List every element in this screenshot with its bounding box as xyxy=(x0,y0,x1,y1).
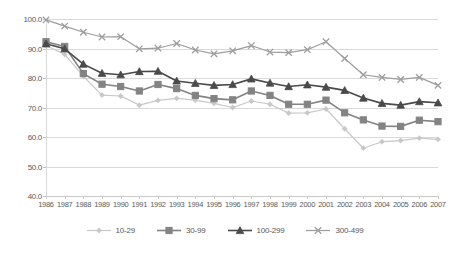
legend-item-10-29[interactable]: 10-29 xyxy=(86,225,135,236)
data-point-square xyxy=(323,97,329,103)
data-point-square xyxy=(416,117,422,123)
data-point-square xyxy=(304,101,310,107)
y-tick-label: 70.0 xyxy=(0,103,42,112)
x-tick-mark xyxy=(139,196,140,199)
data-point-diamond xyxy=(416,135,422,141)
data-point-square xyxy=(211,96,217,102)
data-point-square xyxy=(435,119,441,125)
data-point-square xyxy=(136,88,142,94)
x-tick-label: 1995 xyxy=(206,200,222,209)
legend-label: 10-29 xyxy=(116,226,135,235)
data-point-square xyxy=(379,123,385,129)
series-10-29 xyxy=(43,43,441,151)
legend-marker-diamond xyxy=(86,225,112,236)
x-tick-label: 2001 xyxy=(318,200,334,209)
data-point-square xyxy=(118,83,124,89)
data-point-diamond xyxy=(96,227,102,233)
x-tick-labels: 1986198719881989199019911992199319941995… xyxy=(0,200,449,214)
x-tick-label: 1986 xyxy=(38,200,54,209)
y-tick-label: 80.0 xyxy=(0,74,42,83)
x-tick-label: 1996 xyxy=(225,200,241,209)
data-point-cross xyxy=(435,82,441,88)
data-point-diamond xyxy=(136,102,142,108)
x-tick-mark xyxy=(65,196,66,199)
x-tick-label: 1987 xyxy=(57,200,73,209)
data-point-square xyxy=(267,92,273,98)
data-point-cross xyxy=(341,55,347,61)
data-point-square xyxy=(360,117,366,123)
x-tick-label: 1991 xyxy=(132,200,148,209)
x-tick-mark xyxy=(46,196,47,199)
data-point-square xyxy=(230,97,236,103)
y-tick-label: 90.0 xyxy=(0,44,42,53)
x-tick-label: 2006 xyxy=(412,200,428,209)
x-tick-label: 1999 xyxy=(281,200,297,209)
x-tick-mark xyxy=(401,196,402,199)
data-point-cross xyxy=(248,42,254,48)
data-point-diamond xyxy=(304,110,310,116)
legend-label: 30-99 xyxy=(186,226,205,235)
data-point-diamond xyxy=(174,95,180,101)
x-tick-mark xyxy=(251,196,252,199)
legend-item-30-99[interactable]: 30-99 xyxy=(156,225,205,236)
series-30-99 xyxy=(43,39,441,130)
x-tick-label: 1994 xyxy=(188,200,204,209)
series-layer xyxy=(46,19,438,196)
data-point-diamond xyxy=(379,139,385,145)
x-tick-label: 1992 xyxy=(150,200,166,209)
x-tick-mark xyxy=(121,196,122,199)
legend-item-300-499[interactable]: 300-499 xyxy=(305,225,363,236)
data-point-diamond xyxy=(286,110,292,116)
x-tick-mark xyxy=(382,196,383,199)
data-point-square xyxy=(342,110,348,116)
x-tick-mark xyxy=(289,196,290,199)
x-tick-label: 1993 xyxy=(169,200,185,209)
x-tick-mark xyxy=(214,196,215,199)
x-tick-mark xyxy=(102,196,103,199)
x-tick-label: 1997 xyxy=(244,200,260,209)
x-tick-label: 2007 xyxy=(430,200,446,209)
x-tick-label: 2004 xyxy=(374,200,390,209)
data-point-square xyxy=(286,101,292,107)
line-chart: 100.090.080.070.060.050.040.0 1986198719… xyxy=(0,0,449,253)
x-tick-mark xyxy=(158,196,159,199)
data-point-square xyxy=(99,81,105,87)
series-100-299 xyxy=(42,40,442,108)
data-point-square xyxy=(398,123,404,129)
data-point-diamond xyxy=(230,105,236,111)
legend-marker-triangle xyxy=(227,225,253,236)
x-tick-label: 1988 xyxy=(76,200,92,209)
data-point-square xyxy=(174,86,180,92)
legend-label: 300-499 xyxy=(335,226,363,235)
x-tick-mark xyxy=(233,196,234,199)
x-tick-mark xyxy=(177,196,178,199)
data-point-diamond xyxy=(118,93,124,99)
x-tick-mark xyxy=(307,196,308,199)
plot-area xyxy=(46,19,438,196)
x-tick-mark xyxy=(270,196,271,199)
data-point-diamond xyxy=(248,98,254,104)
data-point-cross xyxy=(323,39,329,45)
data-point-square xyxy=(166,227,172,233)
data-point-square xyxy=(248,88,254,94)
data-point-square xyxy=(155,81,161,87)
legend-marker-cross xyxy=(305,225,331,236)
data-point-diamond xyxy=(398,138,404,144)
x-tick-mark xyxy=(345,196,346,199)
legend-item-100-299[interactable]: 100-299 xyxy=(227,225,285,236)
x-tick-label: 1989 xyxy=(94,200,110,209)
chart-legend: 10-2930-99100-299300-499 xyxy=(0,221,449,239)
x-tick-label: 2000 xyxy=(300,200,316,209)
legend-marker-square xyxy=(156,225,182,236)
data-point-square xyxy=(80,70,86,76)
x-tick-mark xyxy=(195,196,196,199)
x-tick-label: 2003 xyxy=(356,200,372,209)
x-tick-label: 1990 xyxy=(113,200,129,209)
data-point-cross xyxy=(61,23,67,29)
data-point-square xyxy=(192,92,198,98)
x-tick-mark xyxy=(326,196,327,199)
x-tick-mark xyxy=(83,196,84,199)
x-tick-label: 2005 xyxy=(393,200,409,209)
data-point-triangle xyxy=(248,75,256,82)
x-tick-mark xyxy=(438,196,439,199)
